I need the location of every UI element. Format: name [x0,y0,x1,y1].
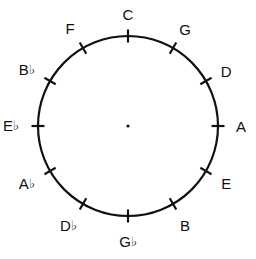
note-letter: F [65,19,74,36]
flat-sign-icon: ♭ [13,118,19,133]
note-letter: A [19,175,29,192]
note-label-bb: B♭ [19,62,35,78]
tick-mark-d [200,78,211,85]
note-letter: G [119,233,131,250]
note-label-b: B [180,218,190,233]
tick-mark-e [200,168,211,175]
note-letter: E [3,117,13,134]
tick-mark-db [80,198,87,209]
note-label-e: E [221,176,231,191]
note-letter: D [60,217,71,234]
note-label-gb: G♭ [119,234,137,250]
note-letter: G [179,20,191,37]
tick-mark-f [80,42,87,53]
note-letter: C [123,6,134,23]
circle-of-fifths-diagram: CGDAEBG♭D♭A♭E♭B♭F [0,0,256,259]
tick-mark-b [170,198,177,209]
note-letter: D [221,63,232,80]
note-label-f: F [65,20,74,35]
flat-sign-icon: ♭ [29,176,35,191]
note-label-d: D [221,64,232,79]
flat-sign-icon: ♭ [131,234,137,249]
note-letter: A [236,118,246,135]
note-label-ab: A♭ [19,176,35,192]
note-label-g: G [179,21,191,36]
circle-svg [0,0,256,259]
tick-mark-bb [44,78,55,85]
note-letter: B [19,61,29,78]
note-label-db: D♭ [60,218,77,234]
note-label-eb: E♭ [3,118,19,134]
note-letter: B [180,217,190,234]
note-label-a: A [236,119,246,134]
tick-mark-ab [44,168,55,175]
center-dot [126,124,129,127]
tick-mark-g [170,42,177,53]
flat-sign-icon: ♭ [71,218,77,233]
note-label-c: C [123,7,134,22]
note-letter: E [221,175,231,192]
flat-sign-icon: ♭ [29,62,35,77]
